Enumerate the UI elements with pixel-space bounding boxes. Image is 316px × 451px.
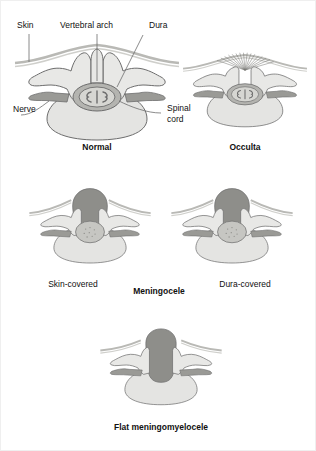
- caption-occulta: Occulta: [185, 143, 305, 152]
- spinal-cord: [218, 221, 247, 243]
- panel-occulta: [177, 31, 313, 141]
- occulta-vertebra-illustration: [177, 31, 313, 141]
- neural-plaque: [146, 329, 176, 382]
- left-nerve-root: [41, 230, 71, 237]
- right-nerve-root: [251, 230, 281, 237]
- left-nerve-root: [29, 92, 69, 102]
- skin-covered-meningocele-illustration: [25, 169, 155, 279]
- label-nerve: Nerve: [13, 105, 36, 115]
- caption-meningocele-group: Meningocele: [109, 287, 209, 296]
- caption-dura-covered: Dura-covered: [195, 280, 295, 289]
- left-nerve-root: [183, 230, 213, 237]
- label-skin: Skin: [17, 21, 34, 31]
- caption-normal: Normal: [37, 143, 157, 152]
- normal-vertebra-illustration: [7, 31, 187, 141]
- right-nerve-root: [266, 91, 296, 98]
- caption-skin-covered: Skin-covered: [23, 280, 123, 289]
- panel-flat-meningomyelocele: [96, 309, 226, 421]
- panel-meningocele-dura-covered: [167, 169, 297, 279]
- right-nerve-root: [180, 369, 212, 376]
- right-nerve-root: [125, 92, 165, 102]
- caption-flat-meningomyelocele: Flat meningomyelocele: [86, 423, 236, 432]
- left-nerve-root: [193, 91, 223, 98]
- dura-covered-meningocele-illustration: [167, 169, 297, 279]
- label-vertebral-arch: Vertebral arch: [60, 21, 113, 31]
- panel-meningocele-skin-covered: [25, 169, 155, 279]
- right-nerve-root: [109, 230, 139, 237]
- flat-meningomyelocele-illustration: [96, 309, 226, 421]
- left-nerve-root: [110, 369, 142, 376]
- figure-frame: Skin Vertebral arch Dura Nerve Spinal co…: [0, 0, 316, 451]
- spinal-cord: [76, 221, 105, 243]
- panel-normal: [7, 31, 187, 141]
- label-dura: Dura: [149, 21, 167, 31]
